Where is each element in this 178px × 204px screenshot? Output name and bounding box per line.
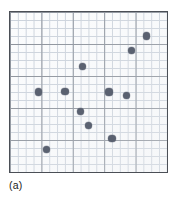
data-point bbox=[143, 32, 150, 39]
plot-frame bbox=[9, 11, 168, 173]
scatter-figure: (a) bbox=[0, 0, 178, 204]
data-point bbox=[128, 47, 135, 54]
panel-caption: (a) bbox=[9, 180, 22, 191]
scatter-points-layer bbox=[10, 12, 167, 172]
data-point bbox=[43, 146, 50, 153]
data-point bbox=[105, 88, 112, 95]
data-point bbox=[79, 63, 86, 70]
data-point bbox=[123, 92, 130, 99]
data-point bbox=[35, 88, 42, 95]
data-point bbox=[61, 88, 68, 95]
data-point bbox=[77, 108, 84, 115]
data-point bbox=[85, 122, 92, 129]
data-point bbox=[108, 135, 115, 142]
